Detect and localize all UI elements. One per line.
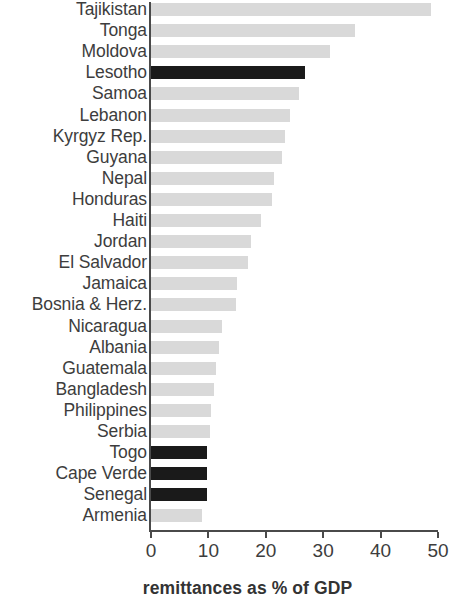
bar-category-label: Tajikistan [76, 1, 147, 19]
bar-category-label: Guatemala [62, 360, 147, 378]
bar-row: Honduras [0, 193, 451, 206]
bar-category-label: El Salvador [59, 254, 147, 272]
x-axis-tick [265, 532, 267, 538]
bar [151, 362, 216, 375]
bar-category-label: Jordan [94, 233, 147, 251]
x-axis-line [149, 530, 438, 532]
bar-row: Cape Verde [0, 467, 451, 480]
bar-row: Armenia [0, 509, 451, 522]
x-axis-tick-label: 0 [146, 541, 157, 560]
x-axis-tick [437, 532, 439, 538]
x-axis-tick [150, 532, 152, 538]
bar-row: Moldova [0, 45, 451, 58]
bar-row: El Salvador [0, 256, 451, 269]
bar [151, 3, 431, 16]
x-axis-tick-label: 50 [427, 541, 448, 560]
bar-row: Jordan [0, 235, 451, 248]
x-axis-title: remittances as % of GDP [0, 578, 451, 599]
x-axis-tick [380, 532, 382, 538]
bar-row: Albania [0, 341, 451, 354]
bar [151, 425, 210, 438]
bar-category-label: Bangladesh [56, 381, 147, 399]
bar-row: Tonga [0, 24, 451, 37]
bar-category-label: Lesotho [85, 64, 147, 82]
bar-row: Bangladesh [0, 383, 451, 396]
bar-row: Kyrgyz Rep. [0, 130, 451, 143]
bar [151, 214, 261, 227]
bar-row: Nepal [0, 172, 451, 185]
bar-row: Senegal [0, 488, 451, 501]
x-axis-tick-label: 30 [313, 541, 334, 560]
x-axis-tick [207, 532, 209, 538]
bar-category-label: Haiti [112, 212, 147, 230]
x-axis-tick-label: 20 [255, 541, 276, 560]
bar-row: Guatemala [0, 362, 451, 375]
bar-row: Bosnia & Herz. [0, 298, 451, 311]
bar-category-label: Kyrgyz Rep. [53, 128, 147, 146]
bar-row: Nicaragua [0, 320, 451, 333]
bar [151, 87, 299, 100]
bar [151, 256, 248, 269]
bar-category-label: Samoa [92, 85, 147, 103]
bar-row: Lebanon [0, 109, 451, 122]
bar [151, 488, 207, 501]
bar-row: Guyana [0, 151, 451, 164]
x-axis-tick-label: 40 [370, 541, 391, 560]
bar-category-label: Albania [89, 339, 147, 357]
bar-row: Togo [0, 446, 451, 459]
bar-row: Serbia [0, 425, 451, 438]
x-axis-tick-label: 10 [198, 541, 219, 560]
bar [151, 320, 222, 333]
bar-category-label: Moldova [82, 43, 147, 61]
bar [151, 341, 219, 354]
bar [151, 509, 202, 522]
bar-category-label: Bosnia & Herz. [32, 296, 147, 314]
bar [151, 109, 290, 122]
bar-category-label: Guyana [86, 149, 147, 167]
bar-category-label: Lebanon [80, 107, 147, 125]
bar-category-label: Nicaragua [68, 318, 147, 336]
bar-category-label: Togo [109, 444, 147, 462]
bar-category-label: Armenia [83, 507, 147, 525]
bar [151, 66, 305, 79]
bar-row: Tajikistan [0, 3, 451, 16]
bar [151, 404, 211, 417]
bar [151, 172, 274, 185]
bar-category-label: Senegal [83, 486, 147, 504]
bar-row: Philippines [0, 404, 451, 417]
bar [151, 24, 355, 37]
x-axis-tick [322, 532, 324, 538]
plot-area: TajikistanTongaMoldovaLesothoSamoaLebano… [0, 0, 451, 535]
bar-category-label: Nepal [102, 170, 147, 188]
bar [151, 446, 207, 459]
bar [151, 235, 251, 248]
bar [151, 277, 237, 290]
bar [151, 383, 214, 396]
bar [151, 193, 272, 206]
bar-row: Lesotho [0, 66, 451, 79]
bar-row: Samoa [0, 87, 451, 100]
bar-category-label: Honduras [72, 191, 147, 209]
bar [151, 151, 282, 164]
bar [151, 298, 236, 311]
bar-category-label: Jamaica [83, 275, 147, 293]
bar-category-label: Philippines [63, 402, 147, 420]
bar-category-label: Cape Verde [56, 465, 147, 483]
bar-row: Haiti [0, 214, 451, 227]
bar-category-label: Tonga [100, 22, 147, 40]
bar [151, 467, 207, 480]
bar-row: Jamaica [0, 277, 451, 290]
bar [151, 45, 330, 58]
bar [151, 130, 285, 143]
bar-chart: TajikistanTongaMoldovaLesothoSamoaLebano… [0, 0, 451, 607]
bar-category-label: Serbia [97, 423, 147, 441]
y-axis-line [149, 2, 151, 531]
